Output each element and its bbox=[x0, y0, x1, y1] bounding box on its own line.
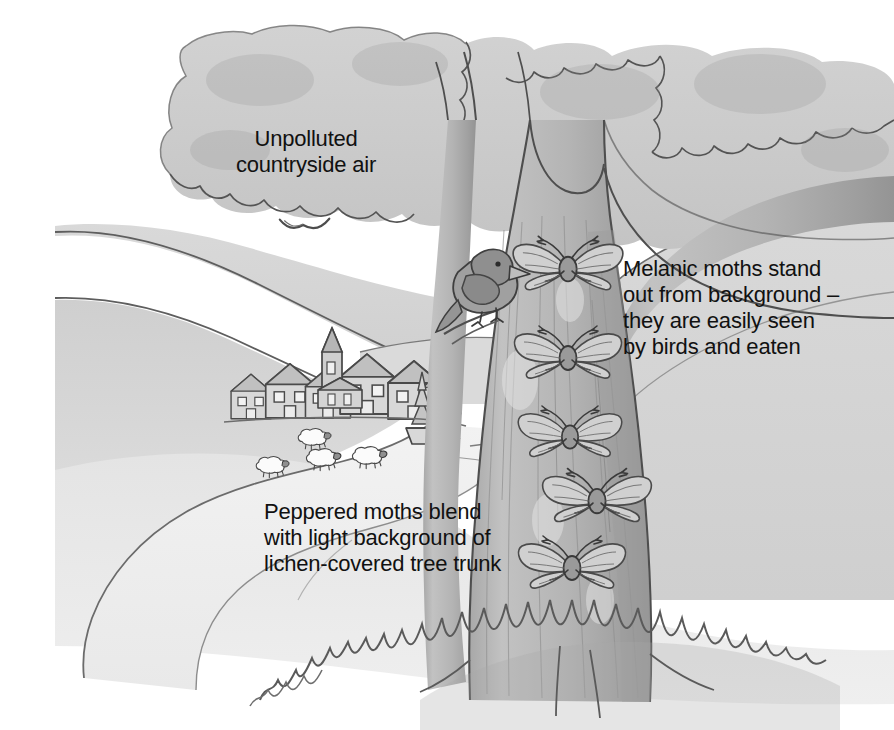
label-melanic-moths: Melanic moths stand out from background … bbox=[623, 256, 839, 360]
peppered-moth-illustration bbox=[0, 0, 894, 730]
label-peppered-moths: Peppered moths blend with light backgrou… bbox=[264, 499, 501, 577]
figure-container: peppered moth bbox=[0, 0, 894, 730]
label-unpolluted-air: Unpolluted countryside air bbox=[236, 126, 376, 178]
